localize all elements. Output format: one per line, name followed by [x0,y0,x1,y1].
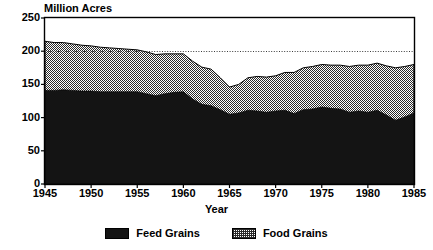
x-tick-label-1945: 1945 [22,188,68,199]
x-tick-label-1950: 1950 [68,188,114,199]
y-tick-label-100: 100 [2,112,40,123]
x-tick-label-1980: 1980 [345,188,391,199]
stacked-area-chart: Million Acres 250200150100500 1945195019… [0,0,433,250]
y-tick-label-200: 200 [2,45,40,56]
y-tick-label-150: 150 [2,78,40,89]
x-tick-label-1970: 1970 [253,188,299,199]
hatched-gray-swatch [232,228,256,239]
solid-black-swatch [105,228,129,239]
legend-item-food-grains: Food Grains [232,228,328,239]
x-tick-label-1975: 1975 [299,188,345,199]
y-tick-label-250: 250 [2,12,40,23]
chart-legend: Feed Grains Food Grains [0,228,433,239]
y-tick-label-50: 50 [2,145,40,156]
legend-label-food-grains: Food Grains [263,228,328,239]
legend-item-feed-grains: Feed Grains [105,228,200,239]
x-tick-label-1955: 1955 [114,188,160,199]
legend-label-feed-grains: Feed Grains [136,228,200,239]
x-tick-label-1965: 1965 [207,188,253,199]
y-axis-title: Million Acres [44,2,112,14]
x-tick-label-1960: 1960 [160,188,206,199]
x-axis-title: Year [0,203,433,215]
x-tick-label-1985: 1985 [391,188,433,199]
